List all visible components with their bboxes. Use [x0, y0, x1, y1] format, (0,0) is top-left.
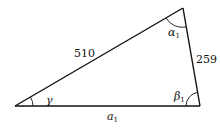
angle-beta1-arc	[186, 92, 198, 106]
angle-label-alpha1: α1	[168, 26, 180, 40]
side-label-510: 510	[74, 47, 95, 60]
side-label-a1: a1	[107, 110, 118, 124]
side-label-259: 259	[196, 53, 217, 66]
side-510	[15, 8, 183, 106]
triangle-diagram: 510 259 a1 γ α1 β1	[0, 0, 220, 128]
angle-gamma-arc	[31, 97, 34, 106]
angle-label-gamma: γ	[46, 94, 53, 107]
angle-label-beta1: β1	[173, 90, 185, 104]
